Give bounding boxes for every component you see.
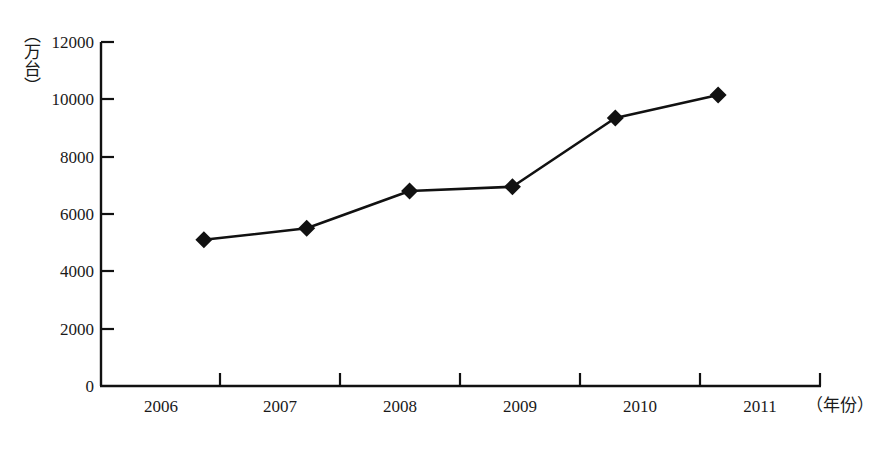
series-line	[204, 95, 718, 240]
x-axis-ticks	[220, 373, 820, 386]
data-point-marker-2006	[195, 231, 212, 248]
data-point-marker-2009	[504, 178, 521, 195]
chart-canvas	[0, 0, 896, 454]
data-point-marker-2007	[298, 220, 315, 237]
data-series	[195, 87, 726, 249]
data-point-marker-2008	[401, 183, 418, 200]
data-point-marker-2010	[607, 109, 624, 126]
y-axis-ticks	[101, 42, 114, 329]
line-chart: （万台） 0 2000 4000 6000 8000 10000 12000 2…	[0, 0, 896, 454]
data-point-marker-2011	[710, 87, 727, 104]
